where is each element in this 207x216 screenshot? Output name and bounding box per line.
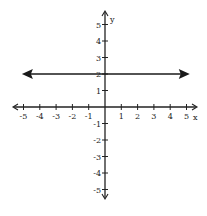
axes xyxy=(13,11,197,199)
y-tick-label: 1 xyxy=(96,87,101,96)
x-tick-label: -5 xyxy=(20,112,28,121)
x-tick-label: -2 xyxy=(69,112,77,121)
x-tick-label: -3 xyxy=(52,112,60,121)
y-tick-label: 3 xyxy=(96,54,101,63)
x-tick-label: -1 xyxy=(85,112,93,121)
x-tick-label: 4 xyxy=(168,112,173,121)
y-tick-label: -3 xyxy=(93,153,101,162)
x-tick-label: 1 xyxy=(119,112,124,121)
y-tick-label: 4 xyxy=(96,37,101,46)
x-tick-label: 2 xyxy=(135,112,140,121)
y-tick-label: -2 xyxy=(93,136,101,145)
x-tick-label: -4 xyxy=(36,112,44,121)
y-tick-label: -4 xyxy=(93,169,101,178)
series xyxy=(22,69,190,79)
y-tick-label: 5 xyxy=(96,21,101,30)
x-tick-label: 3 xyxy=(151,112,156,121)
x-axis-label: x xyxy=(193,113,198,122)
x-tick-label: 5 xyxy=(184,112,189,121)
y-axis-label: y xyxy=(109,15,115,24)
coordinate-plane: -5-4-3-2-112345-5-4-3-2-112345 x y xyxy=(0,0,207,216)
y-tick-label: -5 xyxy=(93,186,101,195)
y-tick-label: -1 xyxy=(93,120,101,129)
